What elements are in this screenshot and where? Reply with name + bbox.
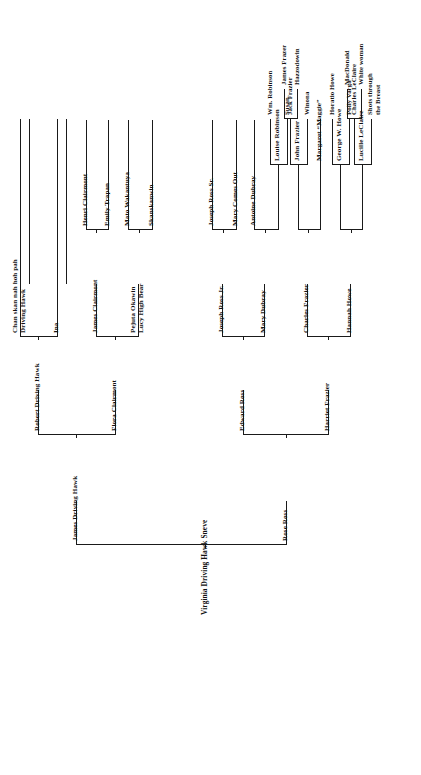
person-flora-clairmont: Flora Clairmont xyxy=(111,380,118,431)
person-margaret-maggie: Margaret “Maggie” xyxy=(316,99,323,161)
person-james-driving-hawk: James Driving Hawk xyxy=(72,476,79,541)
edge-lucille-to-charles xyxy=(354,119,355,165)
pedigree-chart: Virginia Driving Hawk Sneve James Drivin… xyxy=(0,0,421,775)
person-edward-ross: Edward Ross xyxy=(239,390,246,431)
person-emily-trapan: Emily Trapan xyxy=(104,183,111,226)
edge-charles-join xyxy=(354,118,355,122)
person-henri-clairmont: Henri Clairmont xyxy=(82,174,89,226)
person-winona: Winona xyxy=(304,92,311,115)
edge-john-join xyxy=(298,164,299,168)
edge-g3b2-bracket xyxy=(128,229,152,230)
edge-g2b-join xyxy=(115,336,116,340)
edge-g1b-join xyxy=(286,434,287,438)
person-skanskanwin: Skanskanwin xyxy=(148,185,155,227)
person-root: Virginia Driving Hawk Sneve xyxy=(201,520,208,615)
edge-lucille-join xyxy=(362,164,363,168)
edge-g3d1-bracket xyxy=(298,229,320,230)
person-charles-frazier: Charles Frazier xyxy=(303,284,310,333)
edge-g3d1-join xyxy=(308,229,309,233)
person-mary-dubray: Mary Dubray xyxy=(260,290,267,333)
edge-g3b1-bracket xyxy=(86,229,108,230)
edge-g2b-bracket xyxy=(96,336,138,337)
edge-leaf-ina xyxy=(57,119,58,284)
edge-leaf-ina2 xyxy=(66,119,67,284)
edge-george-to-horatio xyxy=(332,119,333,165)
person-ina: Ina xyxy=(53,323,60,334)
person-george-w-howe: George W. Howe xyxy=(336,109,343,161)
edge-g2d-join xyxy=(328,336,329,340)
edge-g2c-join xyxy=(243,336,244,340)
edge-root-bracket xyxy=(76,544,286,545)
person-hazzodowin: Hazzodowin xyxy=(294,48,301,85)
person-hannah-howe: Hannah Howe xyxy=(346,289,353,333)
edge-g3c2-to-louise xyxy=(278,165,279,230)
edge-g3d2-join xyxy=(351,229,352,233)
edge-john-to-jack xyxy=(290,119,291,165)
edge-g3b2-join xyxy=(139,229,140,233)
person-rose-ross: Rose Ross xyxy=(282,510,289,541)
edge-george-join xyxy=(340,164,341,168)
edge-g3d2-to-george xyxy=(340,165,341,230)
person-joseph-ross-jr: Joseph Ross Jr. xyxy=(218,285,225,333)
person-white-woman: White woman xyxy=(358,44,365,85)
person-joseph-ross-sr: Joseph Ross Sr. xyxy=(208,178,215,226)
edge-leaf-drivinghawk xyxy=(29,119,30,284)
edge-g3c2-join xyxy=(265,229,266,233)
edge-lucille-to-shots xyxy=(371,119,372,165)
person-mary-comes-out: Mary Comes Out xyxy=(232,172,239,226)
person-james-frazer: James Frazer xyxy=(281,45,288,85)
edge-g3d2-to-lucille xyxy=(362,165,363,230)
person-harriet-frazier: Harriet Frazier xyxy=(324,383,331,431)
person-lucille-leclaire: Lucille LeClaire xyxy=(358,110,365,161)
person-mato-wakantuya: Mato Wakantuya xyxy=(124,172,131,226)
edge-john-to-winona xyxy=(307,119,308,165)
person-robert-driving-hawk: Robert Driving Hawk xyxy=(34,363,41,431)
edge-louise-to-wm xyxy=(270,119,271,165)
person-antoine-dubray: Antoine Dubray xyxy=(250,176,257,226)
edge-g3d1-to-john xyxy=(298,165,299,230)
chart-page: Virginia Driving Hawk Sneve James Drivin… xyxy=(0,0,421,775)
edge-louise-join xyxy=(278,164,279,168)
edge-george-to-polly xyxy=(349,119,350,165)
person-louise-robinson: Louise Robinson xyxy=(274,109,281,161)
person-pejuta-okawin-lucy-high-bear: Pejuta Okawin Lucy High Bear xyxy=(129,283,146,333)
edge-g3c1-join xyxy=(223,229,224,233)
edge-louise-to-susan xyxy=(287,119,288,165)
edge-g3b1-join xyxy=(96,229,97,233)
person-wm-robinson: Wm. Robinson xyxy=(267,71,274,115)
edge-jack-to-hazzodowin xyxy=(297,89,298,119)
person-macdonald: MacDonald xyxy=(344,50,351,85)
person-shots-through-the-breast: Shots through the Breast xyxy=(366,73,382,115)
edge-g2a-join xyxy=(38,336,39,340)
edge-g1a-join xyxy=(76,434,77,438)
person-john-frazier: John Frazier xyxy=(294,121,301,161)
edge-jack-join xyxy=(290,118,291,122)
edge-g3c2-bracket xyxy=(254,229,278,230)
edge-g3d1-to-margaret xyxy=(320,165,321,230)
person-james-clairmont: James Clairmont xyxy=(92,280,99,333)
edge-g3c1-bracket xyxy=(212,229,236,230)
person-chanskan-driving-hawk: Chan skan nah hoh pah Driving Hawk xyxy=(11,259,28,333)
person-horatio-howe: Horatio Howe xyxy=(329,73,336,115)
